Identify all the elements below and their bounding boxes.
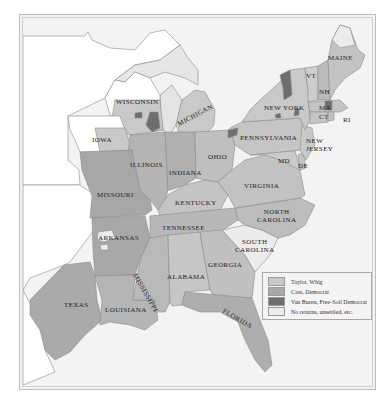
state-label-ct: CT (319, 113, 329, 121)
legend-label-cass-democrat: Cass, Democrat (291, 289, 329, 295)
legend-swatch-no-returns (268, 307, 285, 316)
legend-label-van-buren-free-soil: Van Buren, Free-Soil Democrat (291, 299, 367, 305)
state-label-louisiana: LOUISIANA (105, 306, 147, 314)
state-label-nh: NH (319, 88, 330, 96)
state-label-new-jersey-line1: NEW (306, 137, 333, 145)
state-label-ohio: OHIO (208, 153, 227, 161)
state-label-south-carolina-line1: SOUTH (235, 238, 274, 246)
state-label-south-carolina: SOUTH CAROLINA (235, 238, 274, 254)
state-label-ri: RI (343, 116, 351, 124)
legend-item-no-returns: No returns, unsettled, etc. (268, 307, 353, 316)
state-label-indiana: INDIANA (169, 169, 202, 177)
legend-item-van-buren-free-soil: Van Buren, Free-Soil Democrat (268, 297, 367, 306)
legend-item-taylor-whig: Taylor, Whig (268, 277, 323, 286)
state-label-ma: MA (319, 104, 331, 112)
state-label-md: MD (278, 157, 290, 165)
legend-label-taylor-whig: Taylor, Whig (291, 279, 323, 285)
state-label-iowa: IOWA (92, 136, 112, 144)
arkansas-no-returns-2 (100, 244, 108, 250)
state-label-alabama: ALABAMA (167, 273, 205, 281)
indiana (165, 132, 196, 190)
legend-swatch-taylor-whig (268, 277, 285, 286)
legend-swatch-cass-democrat (268, 287, 285, 296)
state-label-missouri: MISSOURI (97, 191, 134, 199)
state-label-georgia: GEORGIA (208, 261, 242, 269)
state-label-illinois: ILLINOIS (130, 161, 163, 169)
state-label-wisconsin: WISCONSIN (116, 98, 159, 106)
state-label-north-carolina-line2: CAROLINA (257, 216, 296, 224)
state-label-new-jersey: NEW JERSEY (306, 137, 333, 153)
state-label-texas: TEXAS (64, 301, 89, 309)
state-label-new-jersey-line2: JERSEY (306, 145, 333, 153)
state-label-south-carolina-line2: CAROLINA (235, 246, 274, 254)
state-label-arkansas: ARKANSAS (98, 234, 139, 242)
state-label-new-york: NEW YORK (264, 104, 304, 112)
state-label-north-carolina-line1: NORTH (257, 208, 296, 216)
state-label-north-carolina: NORTH CAROLINA (257, 208, 296, 224)
state-label-kentucky: KENTUCKY (175, 199, 217, 207)
state-label-de: DE (298, 162, 308, 170)
state-label-maine: MAINE (328, 54, 353, 62)
map-legend: Taylor, Whig Cass, Democrat Van Buren, F… (262, 272, 372, 320)
legend-swatch-van-buren-free-soil (268, 297, 285, 306)
state-label-tennessee: TENNESSEE (162, 224, 205, 232)
legend-label-no-returns: No returns, unsettled, etc. (291, 309, 353, 315)
state-label-pennsylvania: PENNSYLVANIA (240, 134, 297, 142)
state-label-virginia: VIRGINIA (244, 182, 279, 190)
wisconsin-freesoil-2 (135, 112, 142, 118)
state-label-vt: VT (306, 72, 316, 80)
legend-item-cass-democrat: Cass, Democrat (268, 287, 329, 296)
florida (182, 292, 272, 372)
